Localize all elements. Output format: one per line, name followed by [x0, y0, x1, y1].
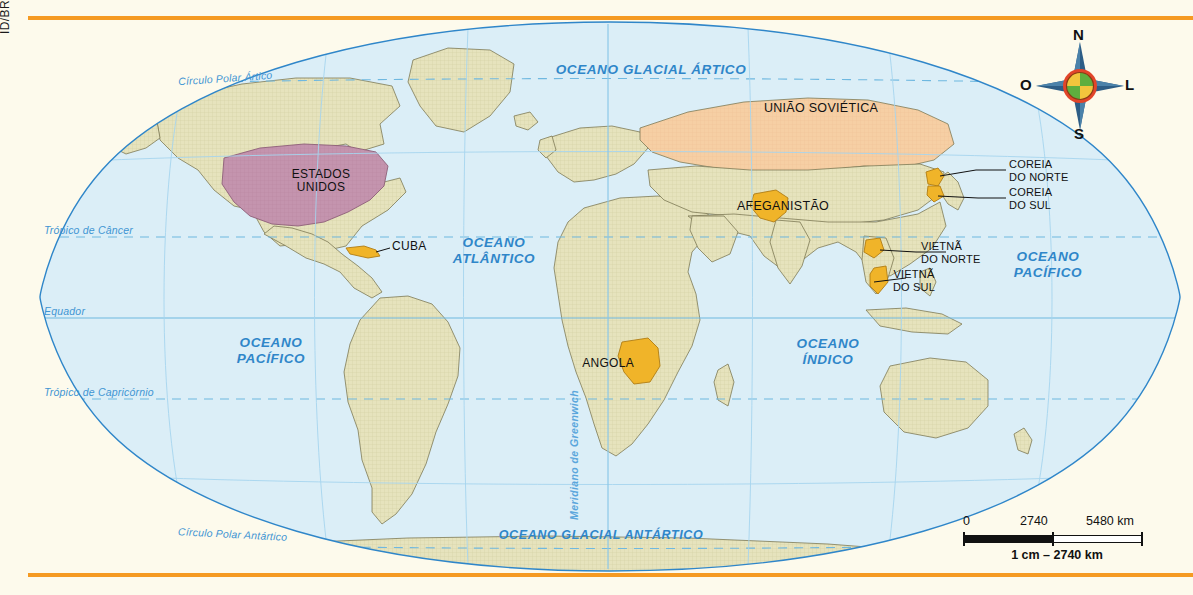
scale-value-zero: 0 [963, 514, 970, 528]
scale-numbers: 0 2740 5480 km [963, 514, 1178, 529]
compass-label-east: L [1125, 76, 1134, 93]
compass-label-west: O [1020, 76, 1032, 93]
world-map: OCEANO GLACIAL ÁRTICO OCEANO ATLÂNTICO O… [28, 20, 1193, 573]
scale-tick-1 [1052, 532, 1054, 546]
scale-tick-2 [1141, 532, 1143, 546]
bottom-divider-rule [28, 573, 1193, 577]
scale-tick-0 [963, 532, 965, 546]
scale-value-mid: 2740 [1020, 514, 1048, 528]
scale-bar: 0 2740 5480 km 1 cm – 2740 km [963, 514, 1178, 562]
map-figure: ID/BR [0, 0, 1193, 595]
compass-label-north: N [1073, 26, 1084, 43]
map-canvas [28, 20, 1193, 573]
compass-rose: N S O L [1020, 26, 1140, 146]
scale-value-max: 5480 km [1086, 514, 1134, 528]
scale-segment-filled [963, 535, 1053, 543]
scale-bar-graphic [963, 532, 1143, 545]
scale-segment-empty [1053, 535, 1143, 543]
scale-equivalence: 1 cm – 2740 km [963, 548, 1151, 562]
land-antarctica [148, 536, 1058, 573]
compass-label-south: S [1074, 125, 1084, 142]
source-credit: ID/BR [0, 0, 14, 34]
